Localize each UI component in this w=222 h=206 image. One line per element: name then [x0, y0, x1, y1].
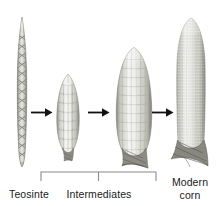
- label-modern-corn-line2: corn: [180, 189, 201, 201]
- specimen-intermediate-small: [53, 72, 83, 164]
- specimen-intermediate-large: [110, 45, 158, 169]
- arrow-teosinte-to-intermediate-1: [31, 107, 53, 118]
- figure-canvas: Teosinte Intermediates Modern corn: [0, 0, 222, 206]
- arrow-intermediate-1-to-2: [88, 107, 110, 118]
- label-modern-corn: Modern corn: [162, 176, 218, 201]
- label-intermediates: Intermediates: [58, 188, 140, 200]
- specimen-teosinte: [13, 16, 31, 168]
- intermediates-bracket: [40, 170, 157, 182]
- label-modern-corn-line1: Modern: [172, 176, 208, 188]
- specimen-modern-corn: [169, 15, 213, 171]
- label-teosinte: Teosinte: [2, 188, 56, 200]
